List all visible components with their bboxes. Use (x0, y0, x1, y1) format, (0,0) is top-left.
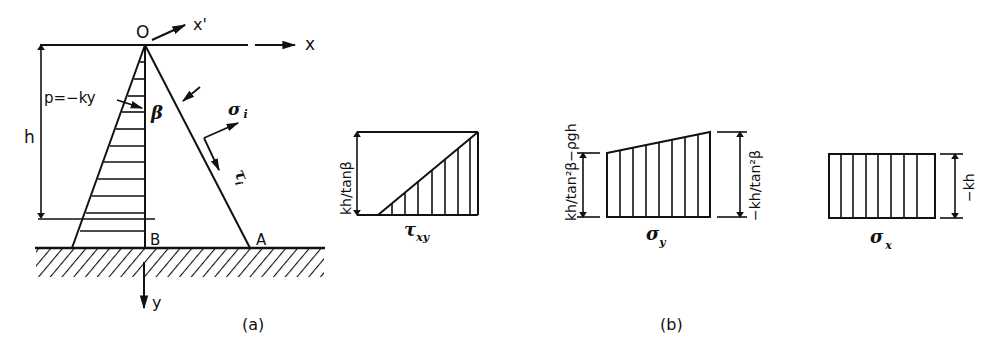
label-pressure: p=−ky (44, 89, 96, 107)
label-origin: O (136, 22, 149, 42)
label-point-b: B (150, 231, 160, 249)
tau-xy-label: τxy (404, 219, 431, 244)
sigma-i-arrow (204, 123, 238, 138)
label-sigma-i: σi (228, 99, 248, 121)
caption-a: (a) (242, 315, 264, 334)
pressure-pointer-arrow (117, 100, 142, 108)
sigma-y-left-dimension-label: kh/tan²β−ρgh (563, 123, 579, 221)
sigma-x-diagram (829, 154, 963, 218)
tau-xy-diagram (357, 132, 478, 215)
sigma-x-hatch-lines (841, 154, 917, 218)
label-height: h (24, 127, 35, 147)
label-y-axis: y (152, 293, 161, 312)
sigma-y-hatch-lines (620, 134, 698, 217)
ground-hatch (36, 249, 324, 277)
face-normal-arrow-top (183, 87, 200, 101)
caption-b: (b) (660, 315, 683, 334)
figure-a-dam-section (35, 25, 325, 308)
label-x-axis: x (305, 34, 315, 54)
tau-xy-hatch-lines (392, 139, 470, 215)
dam-downstream-face (145, 45, 250, 248)
sigma-y-diagram (577, 132, 747, 217)
label-tau-i: τi (229, 167, 253, 188)
sigma-x-label: σx (870, 226, 892, 252)
label-point-a: A (256, 231, 267, 249)
tau-xy-dimension-label: kh/tanβ (338, 161, 354, 215)
diagram-canvas: O x' x h p=−ky β σi τi B A y (a) kh/tanβ… (0, 0, 995, 361)
label-beta: β (150, 102, 163, 123)
sigma-x-dimension-label: −kh (961, 173, 977, 202)
pressure-hatch-lines (80, 62, 145, 231)
sigma-y-label: σy (646, 223, 667, 249)
sigma-y-right-dimension-label: −kh/tan²β (747, 150, 763, 221)
figure-a-labels: O x' x h p=−ky β σi τi B A y (a) (24, 15, 315, 334)
label-x-prime: x' (193, 15, 207, 34)
x-prime-arrow (152, 25, 185, 40)
